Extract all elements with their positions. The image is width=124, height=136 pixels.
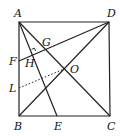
label-h: H: [24, 57, 35, 70]
label-e: E: [53, 120, 62, 133]
label-g: G: [42, 36, 51, 49]
label-o: O: [70, 63, 79, 76]
segment-fd: [19, 22, 109, 61]
label-l: L: [8, 82, 16, 95]
right-angle-mark-h: [32, 48, 36, 51]
label-b: B: [13, 120, 22, 133]
label-d: D: [106, 7, 116, 20]
label-c: C: [107, 120, 116, 133]
geometry-diagram: A D B C E F L O G H: [0, 0, 124, 136]
label-a: A: [13, 7, 22, 20]
label-f: F: [8, 55, 17, 68]
